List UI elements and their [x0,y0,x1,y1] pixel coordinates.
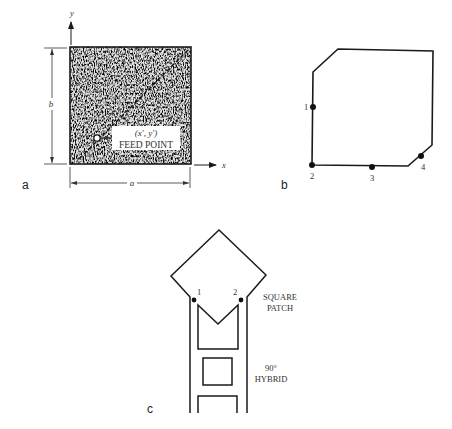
point-2-marker [309,162,315,168]
panel-a-label: a [22,178,29,192]
port-2-marker [239,298,244,303]
hybrid-bottom-section [198,396,237,413]
feed-point-label: FEED POINT [119,140,173,150]
figure: (x′, y′) FEED POINT y x b a a 1 2 3 4 b [0,0,452,429]
point-3-marker [369,164,375,170]
point-3-label: 3 [370,173,374,183]
panel-a: (x′, y′) FEED POINT y x b a a [22,8,226,192]
port-1-marker [192,298,197,303]
hybrid-middle-square [203,358,232,385]
hybrid-label-line2: HYBRID [255,374,288,384]
panel-b: 1 2 3 4 b [281,49,433,192]
x-axis-label: x [221,160,226,170]
point-4-marker [418,153,424,159]
dimension-b-label: b [49,99,54,109]
panel-c-label: c [147,402,153,416]
point-4-label: 4 [421,162,426,172]
square-patch-label-line2: PATCH [267,303,293,313]
port-2-label: 2 [233,287,237,297]
hybrid-notched-section [198,305,238,349]
hybrid-label-line1: 90° [265,363,277,373]
chamfered-patch-outline [312,49,433,166]
feed-point-marker [94,135,100,141]
point-2-label: 2 [310,171,314,181]
point-1-label: 1 [304,102,308,112]
port-1-label: 1 [197,287,201,297]
point-1-marker [310,104,316,110]
feed-point-coord: (x′, y′) [135,128,157,138]
panel-c: 1 2 SQUARE PATCH 90° HYBRID c [147,230,297,416]
panel-b-label: b [281,178,288,192]
y-axis-label: y [69,8,74,18]
dimension-a-label: a [130,178,135,188]
square-patch-label-line1: SQUARE [263,292,297,302]
